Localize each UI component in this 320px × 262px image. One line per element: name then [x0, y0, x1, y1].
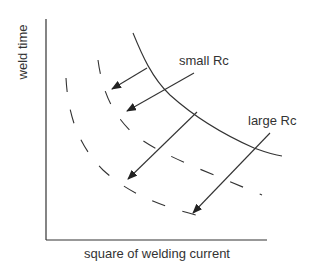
annotation-large-rc: large Rc	[248, 113, 296, 128]
arrow-1	[112, 68, 147, 89]
x-axis-label: square of welding current	[84, 246, 230, 261]
dashed-curve-small-rc	[98, 60, 262, 195]
annotation-small-rc: small Rc	[179, 53, 229, 68]
dashed-curve-large-rc	[66, 78, 208, 218]
arrow-2-small-rc	[127, 73, 194, 111]
arrow-4-large-rc	[193, 133, 270, 213]
arrow-3	[128, 112, 197, 179]
y-axis-label: weld time	[15, 25, 30, 80]
